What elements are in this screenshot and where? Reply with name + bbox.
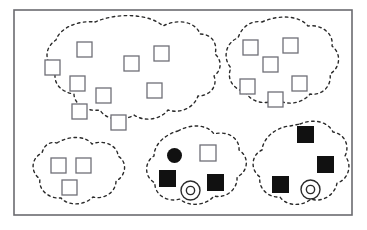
clustering-figure [0, 0, 367, 230]
cluster-top-left-point-0-open-square [45, 60, 60, 75]
cluster-bottom-right-point-2-filled-square [272, 176, 289, 193]
cluster-top-right-point-3-open-square [240, 79, 255, 94]
cluster-top-right-point-1-open-square [283, 38, 298, 53]
cluster-top-right-point-5-open-square [268, 92, 283, 107]
cluster-top-left-point-7-open-square [154, 46, 169, 61]
cluster-top-right-point-0-open-square [243, 40, 258, 55]
cluster-top-left-point-1-open-square [77, 42, 92, 57]
cluster-bottom-middle-point-0-filled-circle [167, 148, 182, 163]
cluster-top-left-point-5-open-square [111, 115, 126, 130]
cluster-top-right-point-2-open-square [263, 57, 278, 72]
cluster-bottom-left-point-1-open-square [76, 158, 91, 173]
cluster-top-left-point-6-open-square [124, 56, 139, 71]
cluster-bottom-middle-point-1-open-square [200, 145, 216, 161]
cluster-bottom-middle-point-2-filled-square [159, 170, 176, 187]
cluster-bottom-right-point-1-filled-square [317, 156, 334, 173]
cluster-top-left-point-4-open-square [72, 104, 87, 119]
cluster-top-left-point-3-open-square [96, 88, 111, 103]
cluster-bottom-middle-point-3-filled-square [207, 174, 224, 191]
cluster-top-left-point-2-open-square [70, 76, 85, 91]
cluster-top-left-point-8-open-square [147, 83, 162, 98]
cluster-canvas [0, 0, 367, 230]
cluster-bottom-left-point-2-open-square [62, 180, 77, 195]
cluster-bottom-right-point-0-filled-square [297, 126, 314, 143]
cluster-bottom-left-point-0-open-square [51, 158, 66, 173]
cluster-top-right-point-4-open-square [292, 76, 307, 91]
